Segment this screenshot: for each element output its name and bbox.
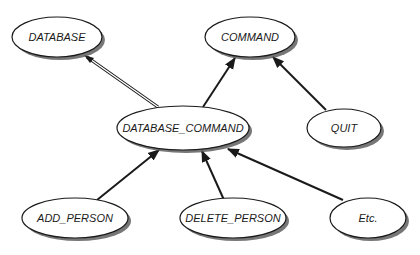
edge-add-person-to-database-command: [97, 150, 159, 200]
node-label: DATABASE_COMMAND: [122, 122, 243, 134]
node-label: DATABASE: [28, 31, 86, 43]
node-database: DATABASE: [12, 17, 105, 60]
node-label: QUIT: [331, 122, 359, 134]
node-label: DELETE_PERSON: [185, 212, 280, 224]
node-add-person: ADD_PERSON: [22, 198, 131, 241]
edge-quit-to-command: [273, 57, 326, 110]
edge-database-command-to-database: [84, 55, 158, 107]
node-database-command: DATABASE_COMMAND: [117, 106, 252, 153]
inheritance-diagram: DATABASE COMMAND DATABASE_COMMAND QUIT A…: [0, 0, 420, 255]
edge-database-command-to-command: [203, 58, 235, 107]
node-delete-person: DELETE_PERSON: [180, 198, 289, 241]
node-etc: Etc.: [330, 198, 409, 241]
edge-delete-person-to-database-command: [202, 151, 224, 200]
node-label: Etc.: [359, 212, 378, 224]
node-command: COMMAND: [205, 17, 298, 60]
edge-etc-to-database-command: [228, 149, 343, 200]
node-quit: QUIT: [307, 109, 384, 150]
node-label: COMMAND: [221, 31, 279, 43]
node-label: ADD_PERSON: [36, 212, 113, 224]
